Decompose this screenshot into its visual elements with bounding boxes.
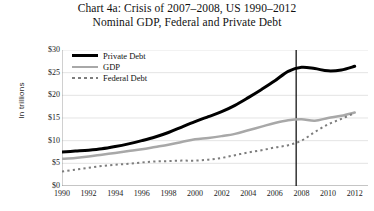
y-axis-tick-label: $30: [34, 45, 60, 54]
series-line-gdp: [62, 113, 355, 159]
series-line-federal-debt: [62, 113, 355, 171]
y-axis-tick-label: $15: [34, 113, 60, 122]
y-axis-tick-label: $20: [34, 90, 60, 99]
y-axis-tick-label: $25: [34, 68, 60, 77]
y-axis-ticks: $0$5$10$15$20$25$30: [30, 0, 60, 211]
plot-svg: [62, 50, 368, 186]
x-axis-tick-label: 2012: [338, 189, 372, 198]
y-axis-tick-label: $10: [34, 136, 60, 145]
plot-area: [62, 50, 368, 186]
y-axis-label: In trillions: [17, 71, 26, 131]
chart-container: Chart 4a: Crisis of 2007–2008, US 1990–2…: [0, 0, 374, 211]
y-axis-tick-label: $5: [34, 158, 60, 167]
